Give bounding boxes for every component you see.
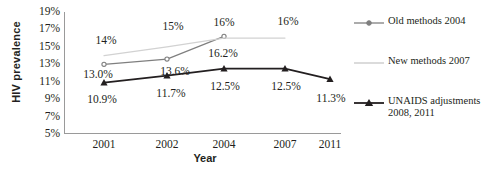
legend-label-sub: 2008, 2011 <box>388 107 488 119</box>
chart-container: HIV prevalence 19%17%15%13%11%9%7%5% 14%… <box>0 0 488 174</box>
y-axis-tick-label: 9% <box>14 93 60 104</box>
y-axis-tick-label: 15% <box>14 41 60 52</box>
x-axis-title: Year <box>150 152 260 164</box>
data-point-label: 16% <box>259 15 317 27</box>
triangle-marker-icon <box>352 96 386 110</box>
x-axis-tick-label: 2001 <box>74 138 134 150</box>
data-point-label: 16% <box>195 16 253 28</box>
y-axis-tick-labels: 19%17%15%13%11%9%7%5% <box>12 0 60 174</box>
chart-legend: Old methods 2004New methods 2007UNAIDS a… <box>352 16 488 136</box>
data-point-label: 14% <box>77 34 135 46</box>
legend-label-main: New methods 2007 <box>388 55 470 66</box>
data-point-label: 10.9% <box>73 93 131 105</box>
data-point-marker <box>102 62 106 66</box>
y-axis-tick-label: 17% <box>14 23 60 34</box>
line-swatch-icon <box>352 56 386 70</box>
legend-label: New methods 2007 <box>388 55 488 67</box>
y-axis-tick-label: 5% <box>14 128 60 139</box>
data-point-label: 15% <box>144 20 202 32</box>
x-axis-tick-label: 2002 <box>137 138 197 150</box>
legend-label: Old methods 2004 <box>388 15 488 27</box>
y-axis-tick-label: 7% <box>14 111 60 122</box>
legend-label-main: UNAIDS adjustments <box>388 95 480 106</box>
data-point-label: 12.5% <box>196 80 254 92</box>
data-point-label: 12.5% <box>257 80 315 92</box>
data-point-label: 11.7% <box>142 87 200 99</box>
plot-area: 14%15%16%16%13.0%13.6%16.2%10.9%11.7%12.… <box>64 12 341 134</box>
x-axis-tick-label: 2004 <box>194 138 254 150</box>
data-point-label: 16.2% <box>194 47 252 59</box>
y-axis-tick-label: 19% <box>14 6 60 17</box>
legend-label: UNAIDS adjustments2008, 2011 <box>388 95 488 118</box>
y-axis-tick-label: 13% <box>14 58 60 69</box>
y-axis-tick-label: 11% <box>14 76 60 87</box>
x-axis-tick-label: 2011 <box>300 138 360 150</box>
data-point-label: 13.6% <box>146 65 204 77</box>
legend-label-main: Old methods 2004 <box>388 15 466 26</box>
data-point-label: 13.0% <box>69 68 127 80</box>
data-point-marker <box>165 57 169 61</box>
circle-marker-icon <box>352 16 386 30</box>
